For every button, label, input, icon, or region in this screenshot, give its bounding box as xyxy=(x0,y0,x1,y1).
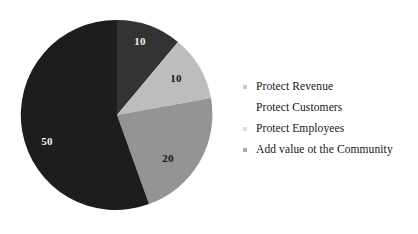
legend-label-protect-customers: Protect Customers xyxy=(256,102,342,114)
legend-swatch-icon xyxy=(243,85,247,89)
legend-item-protect-revenue[interactable]: Protect Revenue xyxy=(243,76,418,97)
legend-swatch-icon xyxy=(243,106,247,110)
legend-label-protect-employees: Protect Employees xyxy=(256,123,344,135)
legend-item-protect-employees[interactable]: Protect Employees xyxy=(243,118,418,139)
chart-legend: Protect Revenue Protect Customers Protec… xyxy=(243,76,418,160)
pie-chart-slide: 10 10 20 50 Protect Revenue Protect Cust… xyxy=(0,0,418,234)
legend-swatch-icon xyxy=(243,148,247,152)
legend-item-add-value-community[interactable]: Add value ot the Community xyxy=(243,139,418,160)
pie-label-add-value-community: 50 xyxy=(41,135,53,147)
pie-label-protect-revenue: 10 xyxy=(134,35,146,47)
legend-label-add-value-community: Add value ot the Community xyxy=(256,144,393,156)
pie-slices xyxy=(21,20,213,210)
pie-chart: 10 10 20 50 xyxy=(0,0,236,234)
legend-item-protect-customers[interactable]: Protect Customers xyxy=(243,97,418,118)
pie-chart-svg: 10 10 20 50 xyxy=(0,0,236,234)
legend-label-protect-revenue: Protect Revenue xyxy=(256,81,333,93)
legend-swatch-icon xyxy=(243,127,247,131)
pie-label-protect-customers: 10 xyxy=(170,72,182,84)
pie-label-protect-employees: 20 xyxy=(162,152,174,164)
